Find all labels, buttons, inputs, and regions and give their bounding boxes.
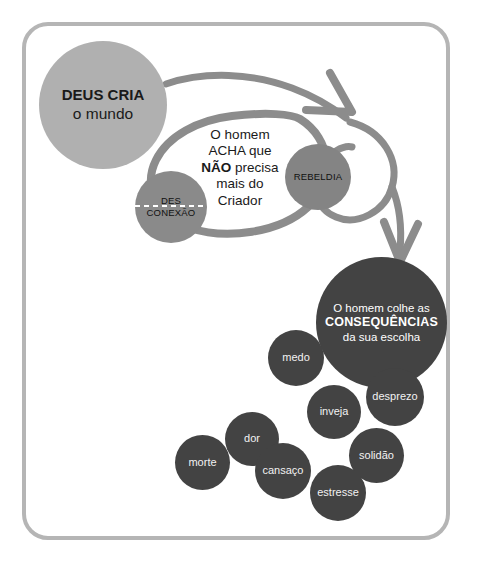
consequence-label: medo (268, 351, 324, 364)
node-consequence-cansaco: cansaço (255, 443, 311, 499)
node-o-homem-acha: O homem ACHA que NÃO precisa mais do Cri… (178, 106, 302, 230)
consequence-label: desprezo (366, 390, 424, 403)
acha-line3-bold: NÃO (201, 160, 231, 175)
node-consequence-inveja: inveja (307, 385, 361, 439)
node-deus-line2: o mundo (73, 105, 133, 122)
node-deus-cria: DEUS CRIA o mundo (39, 41, 167, 169)
acha-line2: ACHA que (208, 143, 271, 158)
consequence-label: cansaço (255, 464, 311, 477)
conseq-line3: da sua escolha (343, 331, 420, 343)
diagram-canvas: DEUS CRIA o mundo DES CONEXÃO O homem AC… (0, 0, 477, 564)
desconexao-dashed-separator (135, 205, 207, 207)
node-consequencias: O homem colhe as CONSEQUÊNCIAS da sua es… (316, 257, 447, 388)
node-consequence-medo: medo (268, 330, 324, 386)
acha-line4: mais do (216, 176, 263, 191)
conseq-line1: O homem colhe as (333, 302, 430, 314)
consequence-label: morte (175, 456, 230, 469)
acha-line3-rest: precisa (231, 160, 278, 175)
node-consequence-estresse: estresse (310, 465, 366, 521)
acha-line5: Criador (218, 193, 262, 208)
conseq-line2: CONSEQUÊNCIAS (325, 315, 438, 329)
consequence-label: dor (225, 432, 279, 445)
acha-line1: O homem (210, 127, 269, 142)
consequence-label: inveja (307, 405, 361, 418)
consequence-label: estresse (310, 486, 366, 499)
node-consequence-morte: morte (175, 435, 230, 490)
node-consequence-desprezo: desprezo (366, 368, 424, 426)
node-deus-line1: DEUS CRIA (62, 86, 145, 103)
consequence-label: solidão (349, 449, 404, 462)
